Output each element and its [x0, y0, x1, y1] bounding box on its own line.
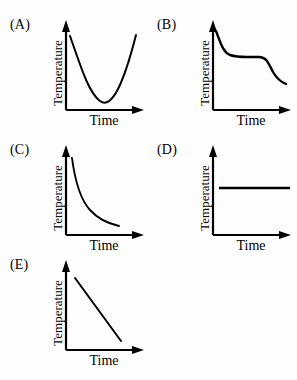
- panel-label-e: (E): [10, 258, 28, 272]
- curve-a: [70, 35, 136, 103]
- graph-panel-e: (E) Temperature Time: [8, 256, 148, 374]
- curve-c: [72, 158, 119, 226]
- curve-e: [75, 278, 121, 341]
- y-axis-d: [209, 145, 217, 235]
- graph-panel-c: (C) Temperature Time: [8, 141, 148, 259]
- plot-area-c: Temperature Time: [36, 141, 148, 259]
- panel-label-d: (D): [157, 143, 177, 157]
- graph-panel-a: (A) Temperature Time: [8, 16, 148, 134]
- x-axis-label-e: Time: [72, 353, 136, 369]
- y-axis-e: [62, 260, 70, 350]
- panel-label-c: (C): [10, 143, 29, 157]
- figure-sheet: (A) Temperature Time: [0, 0, 297, 380]
- graph-panel-b: (B) Temperature Time: [155, 16, 295, 134]
- x-axis-label-a: Time: [72, 113, 136, 129]
- x-axis-label-c: Time: [72, 238, 136, 254]
- x-axis-label-d: Time: [219, 238, 283, 254]
- panel-label-b: (B): [157, 18, 176, 32]
- plot-area-e: Temperature Time: [36, 256, 148, 374]
- y-axis-a: [62, 20, 70, 110]
- graph-panel-d: (D) Temperature Time: [155, 141, 295, 259]
- y-axis-c: [62, 145, 70, 235]
- panel-label-a: (A): [10, 18, 30, 32]
- x-axis-label-b: Time: [219, 113, 283, 129]
- plot-area-d: Temperature Time: [183, 141, 295, 259]
- plot-area-b: Temperature Time: [183, 16, 295, 134]
- plot-area-a: Temperature Time: [36, 16, 148, 134]
- curve-b: [216, 31, 286, 84]
